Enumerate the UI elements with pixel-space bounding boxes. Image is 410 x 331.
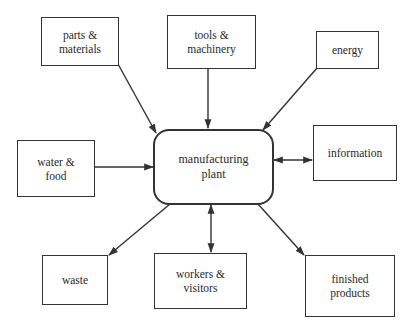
node-parts-materials: parts &materials bbox=[41, 17, 119, 66]
node-label-line1: finished bbox=[330, 272, 370, 286]
node-label-line2: products bbox=[330, 286, 370, 300]
node-label-line1: parts & bbox=[59, 28, 101, 42]
node-waste: waste bbox=[42, 255, 108, 305]
arrow-energy-to-plant bbox=[263, 68, 317, 130]
node-label: energy bbox=[332, 43, 363, 57]
arrow-plant-to-waste bbox=[109, 204, 170, 255]
center-label-line1: manufacturing bbox=[179, 152, 249, 167]
node-information: information bbox=[313, 125, 397, 181]
node-water-food: water &food bbox=[17, 140, 95, 197]
node-label-line2: machinery bbox=[187, 42, 236, 56]
arrow-parts-to-plant bbox=[118, 64, 156, 133]
center-label-line2: plant bbox=[179, 167, 249, 182]
node-label: information bbox=[328, 146, 382, 160]
node-label-line2: visitors bbox=[176, 281, 225, 295]
node-label-line1: tools & bbox=[187, 28, 236, 42]
node-workers-visitors: workers &visitors bbox=[154, 253, 247, 309]
node-label-line1: water & bbox=[37, 155, 74, 169]
node-label-line2: materials bbox=[59, 42, 101, 56]
node-label: waste bbox=[62, 273, 88, 287]
node-energy: energy bbox=[316, 31, 379, 69]
node-tools-machinery: tools &machinery bbox=[167, 15, 256, 69]
node-label-line1: workers & bbox=[176, 267, 225, 281]
arrow-plant-to-products bbox=[258, 204, 304, 255]
node-finished-products: finishedproducts bbox=[305, 255, 395, 317]
node-label-line2: food bbox=[37, 169, 74, 183]
node-manufacturing-plant: manufacturingplant bbox=[153, 129, 274, 205]
